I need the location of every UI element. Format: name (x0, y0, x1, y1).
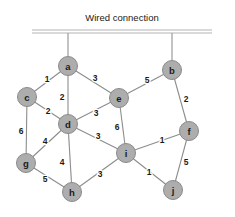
network-diagram-figure: 1122335522226633444433661155553311 abcde… (0, 0, 235, 217)
node-label-i: i (125, 148, 128, 159)
edge-weight-f-j: 5 (184, 157, 189, 167)
node-d[interactable]: d (59, 115, 78, 134)
node-label-c: c (24, 92, 29, 103)
node-label-a: a (65, 61, 71, 72)
node-label-d: d (65, 119, 71, 130)
edge-weight-e-i: 6 (115, 122, 120, 132)
node-c[interactable]: c (18, 88, 37, 107)
graph-edges-group (26, 66, 189, 192)
node-label-b: b (169, 65, 175, 76)
wired-connection-bus (32, 30, 212, 33)
edge-weight-i-j: 1 (147, 167, 152, 177)
edge-weight-h-i: 3 (98, 169, 103, 179)
node-label-j: j (171, 185, 175, 196)
wired-connection-label: Wired connection (85, 12, 158, 23)
edge-weight-a-d: 2 (60, 92, 65, 102)
node-g[interactable]: g (17, 154, 36, 173)
node-i[interactable]: i (117, 144, 136, 163)
edge-weight-g-h: 5 (43, 174, 48, 184)
edge-weight-labels-group: 1122335522226633444433661155553311 (19, 73, 189, 184)
edge-weight-d-i: 3 (96, 131, 101, 141)
edge-weight-a-c: 1 (45, 74, 50, 84)
node-e[interactable]: e (110, 89, 129, 108)
graph-canvas: 1122335522226633444433661155553311 abcde… (0, 0, 235, 217)
node-j[interactable]: j (164, 181, 183, 200)
uplink-edges-group (68, 33, 172, 60)
node-b[interactable]: b (163, 61, 182, 80)
edge-weight-a-e: 3 (93, 73, 98, 83)
node-a[interactable]: a (59, 57, 78, 76)
edge-weight-d-h: 4 (60, 157, 65, 167)
edge-f-i (126, 131, 189, 153)
node-label-g: g (23, 158, 29, 169)
node-label-e: e (116, 93, 121, 104)
edge-weight-c-g: 6 (19, 126, 24, 136)
edge-weight-b-f: 2 (184, 94, 189, 104)
edge-weight-b-e: 5 (145, 75, 150, 85)
node-label-h: h (69, 187, 75, 198)
node-h[interactable]: h (63, 183, 82, 202)
edge-weight-d-g: 4 (43, 136, 48, 146)
edge-d-h (68, 124, 72, 192)
edge-weight-f-i: 1 (160, 135, 165, 145)
edge-weight-d-e: 3 (94, 108, 99, 118)
node-f[interactable]: f (180, 122, 199, 141)
edge-weight-c-d: 2 (46, 106, 51, 116)
